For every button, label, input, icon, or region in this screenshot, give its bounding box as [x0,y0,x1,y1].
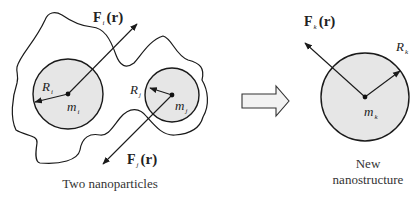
radius-label-j: Rj [130,83,141,99]
mass-label-k: mk [364,105,378,121]
radius-label-k: Rk [396,40,408,56]
mass-label-j: mj [175,99,187,115]
caption-line-1: New [318,157,418,170]
mass-label-i: mi [67,100,79,116]
force-symbol: F [93,10,102,25]
force-label-i: Fi(r) [93,10,123,27]
caption-two-nanoparticles: Two nanoparticles [60,177,160,190]
center-dot-j [170,93,175,98]
force-label-k: Fk(r) [304,14,335,31]
caption-line-2: nanostructure [318,173,418,186]
center-dot-i [66,92,71,97]
force-argument: (r) [107,9,124,25]
force-arrow-i [68,24,137,94]
force-label-j: Fj(r) [127,152,157,169]
radius-label-i: Ri [42,80,53,96]
block-right-arrow-icon [242,86,289,116]
caption-new-nanostructure: New nanostructure [318,157,418,186]
force-subscript: i [103,19,105,27]
center-dot-k [363,95,368,100]
